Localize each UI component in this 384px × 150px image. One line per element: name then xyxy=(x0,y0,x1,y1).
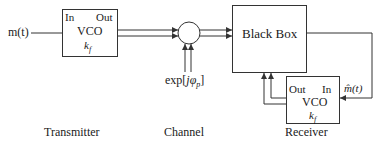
rx-port-out-label: Out xyxy=(289,83,306,95)
fm-system-diagram: m(t) In Out VCO kf exp[jφp] Black Box Ou… xyxy=(0,0,384,150)
channel-phase-label: exp[jφp] xyxy=(165,74,204,91)
rx-vco-label: VCO xyxy=(302,96,327,108)
tx-vco-label: VCO xyxy=(77,25,102,37)
channel-caption: Channel xyxy=(164,126,204,138)
estimate-signal-label: m̂(t) xyxy=(344,82,362,94)
rx-gain-label: kf xyxy=(309,109,316,126)
channel-mixer-circle xyxy=(178,22,200,44)
black-box-label: Black Box xyxy=(242,28,297,40)
rx-port-in-label: In xyxy=(322,83,331,95)
tx-gain-label: kf xyxy=(84,39,91,56)
transmitter-caption: Transmitter xyxy=(44,126,100,138)
tx-port-out-label: Out xyxy=(96,11,113,23)
receiver-caption: Receiver xyxy=(285,126,328,138)
tx-port-in-label: In xyxy=(65,11,74,23)
input-signal-label: m(t) xyxy=(8,26,29,38)
